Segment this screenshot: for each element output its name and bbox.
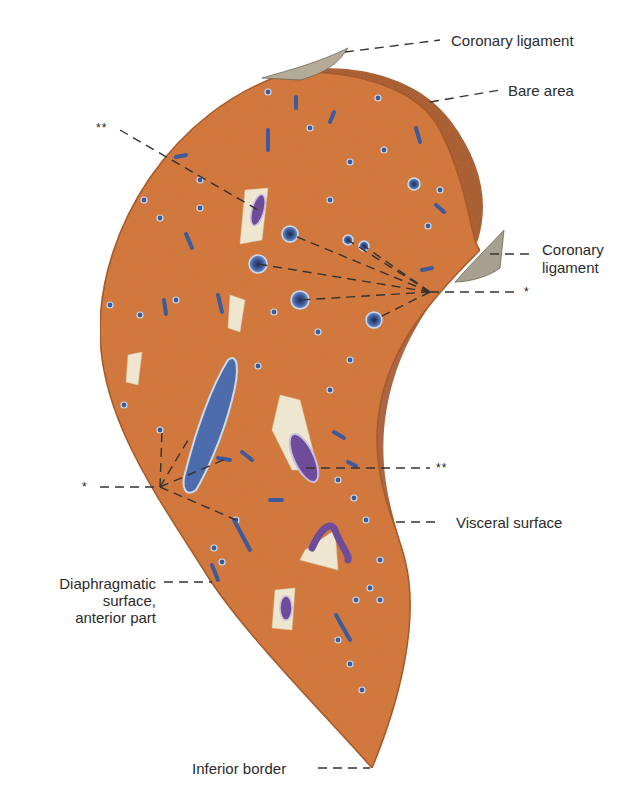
label-diaphragmatic-line1: Diaphragmatic [56, 575, 156, 592]
label-diaphragmatic-line2: surface, [56, 592, 156, 609]
label-inferior-border: Inferior border [192, 760, 286, 777]
label-double-star-right: ** [436, 461, 447, 475]
label-coronary-ligament-right-line1: Coronary [542, 241, 604, 258]
label-bare-area: Bare area [508, 82, 574, 99]
label-star-right: * [524, 285, 530, 299]
label-star-left: * [82, 480, 88, 494]
label-coronary-ligament-top: Coronary ligament [451, 32, 574, 49]
label-coronary-ligament-right-line2: ligament [542, 259, 599, 276]
label-visceral-surface: Visceral surface [456, 514, 562, 531]
label-diaphragmatic-line3: anterior part [56, 609, 156, 626]
label-double-star-top: ** [96, 121, 107, 135]
